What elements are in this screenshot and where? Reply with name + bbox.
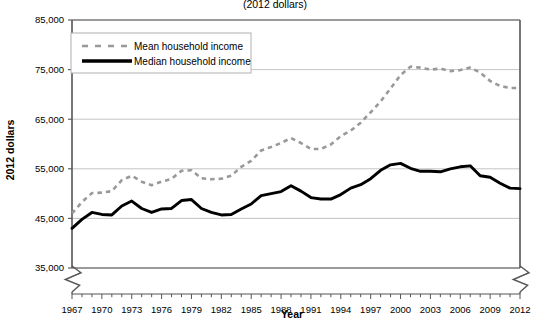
x-tick-label-1979: 1979 — [181, 304, 202, 315]
x-axis-title: Year — [281, 308, 303, 320]
y-axis-title: 2012 dollars — [4, 119, 16, 180]
series-line-mean-household-income — [72, 67, 520, 214]
x-tick-label-2000: 2000 — [390, 304, 411, 315]
legend-label-median: Median household income — [134, 56, 251, 67]
data-series-layer — [72, 67, 520, 229]
y-axis-break-left-icon — [65, 266, 81, 292]
x-tick-label-1982: 1982 — [211, 304, 232, 315]
x-tick-label-1985: 1985 — [241, 304, 262, 315]
x-tick-label-1976: 1976 — [151, 304, 172, 315]
x-tick-label-2006: 2006 — [450, 304, 471, 315]
y-tick-label-55000: 55,000 — [35, 163, 64, 174]
x-tick-label-1994: 1994 — [330, 304, 351, 315]
axis-break-symbols — [65, 266, 529, 294]
y-tick-label-35000: 35,000 — [35, 262, 64, 273]
x-tick-label-1970: 1970 — [91, 304, 112, 315]
y-tick-label-85000: 85,000 — [35, 14, 64, 25]
y-tick-label-45000: 45,000 — [35, 213, 64, 224]
y-tick-label-75000: 75,000 — [35, 64, 64, 75]
x-tick-label-2012: 2012 — [509, 304, 530, 315]
legend-label-mean: Mean household income — [134, 41, 243, 52]
legend-box — [71, 33, 251, 73]
y-tick-label-65000: 65,000 — [35, 114, 64, 125]
x-tick-label-1997: 1997 — [360, 304, 381, 315]
x-tick-label-1967: 1967 — [61, 304, 82, 315]
x-tick-label-1973: 1973 — [121, 304, 142, 315]
x-tick-label-2009: 2009 — [480, 304, 501, 315]
x-tick-label-2003: 2003 — [420, 304, 441, 315]
legend: Mean household income Median household i… — [71, 33, 251, 73]
income-line-chart: (2012 dollars) 35,00045,00055,00065,0007… — [0, 0, 550, 322]
y-axis-break-right-icon — [513, 266, 529, 292]
chart-title: (2012 dollars) — [243, 0, 307, 10]
y-axis-ticks: 35,00045,00055,00065,00075,00085,000 — [35, 14, 72, 273]
chart-canvas: (2012 dollars) 35,00045,00055,00065,0007… — [0, 0, 550, 322]
x-tick-label-1991: 1991 — [300, 304, 321, 315]
